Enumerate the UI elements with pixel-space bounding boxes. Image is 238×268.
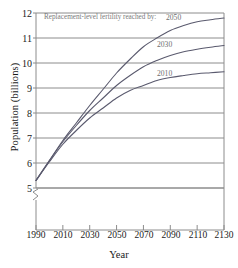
- curve-label-2050: 2050: [166, 13, 181, 22]
- population-projection-chart: Population (billions) 12 11 10 9 8 7 6 5…: [0, 0, 238, 268]
- fertility-note-label: Replacement-level fertility reached by:: [44, 13, 156, 21]
- axis-ticks: [33, 13, 224, 230]
- plot-frame: [36, 13, 224, 230]
- y-axis-break-icon: [33, 189, 38, 200]
- curve-label-2030: 2030: [157, 40, 172, 49]
- curve-label-2010: 2010: [157, 69, 172, 78]
- curve-2050: [36, 18, 224, 181]
- plot-area: [0, 0, 238, 268]
- data-curves: [36, 18, 224, 181]
- gridlines: [36, 38, 224, 188]
